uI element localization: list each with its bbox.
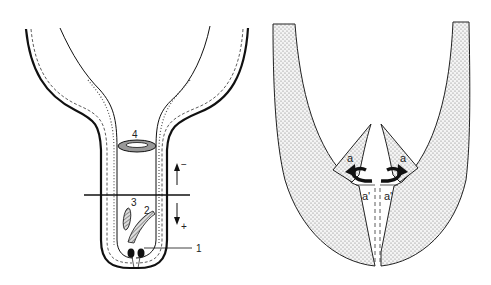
structure-3 xyxy=(122,208,132,231)
label-a-prime-left: a' xyxy=(362,190,370,202)
left-diagram: 4 − + 3 2 1 xyxy=(26,26,248,268)
label-2: 2 xyxy=(144,205,150,216)
right-diagram: a a a' a' xyxy=(273,22,470,266)
label-minus: − xyxy=(181,159,187,170)
structure-2 xyxy=(128,211,155,243)
figure-canvas: 4 − + 3 2 1 xyxy=(0,0,491,285)
label-plus: + xyxy=(181,221,187,232)
label-a-right: a xyxy=(400,152,407,164)
label-a-prime-right: a' xyxy=(384,190,392,202)
label-a-left: a xyxy=(347,152,354,164)
label-1: 1 xyxy=(196,243,202,254)
arrow-down-icon xyxy=(174,203,180,225)
label-4: 4 xyxy=(132,129,138,140)
arrow-up-icon xyxy=(174,163,180,185)
label-3: 3 xyxy=(131,197,137,208)
ring-structure xyxy=(118,140,156,152)
